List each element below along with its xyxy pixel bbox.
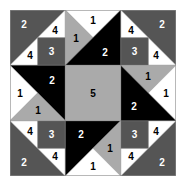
piece-label: 2 [131,101,137,112]
piece-label: 2 [78,129,84,140]
piece-label: 2 [159,157,165,168]
piece-label: 5 [90,88,96,99]
piece-label: 1 [90,161,96,172]
piece-label: 4 [27,126,33,137]
piece-label: 1 [73,33,79,44]
piece-label: 1 [163,88,169,99]
piece-label: 2 [49,75,55,86]
piece-label: 1 [145,71,151,82]
piece-label: 4 [27,50,33,61]
piece-label: 4 [128,25,134,36]
piece-label: 1 [107,143,113,154]
piece-label: 3 [49,46,55,57]
piece-label: 3 [49,129,55,140]
piece-label: 4 [52,151,58,162]
piece-label: 1 [35,105,41,116]
piece-label: 4 [153,50,159,61]
piece-label: 4 [52,25,58,36]
piece-label: 2 [21,19,27,30]
piece-label: 2 [159,19,165,30]
piece-label: 3 [132,46,138,57]
piece-label: 4 [128,151,134,162]
piece-label: 3 [132,129,138,140]
piece-label: 4 [153,126,159,137]
piece-label: 2 [21,157,27,168]
piece-label: 2 [102,47,108,58]
piece-label: 1 [17,88,23,99]
piece-label: 1 [90,15,96,26]
quilt-block-diagram: 24432443244324431121122112115 [10,10,176,176]
